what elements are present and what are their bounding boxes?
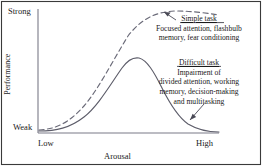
annotation-difficult-task-line-1: Impairment of [141,68,257,78]
x-axis-left-label: Low [38,139,54,148]
annotation-simple-task-line-1: Focused attention, flashbulb [140,24,258,34]
annotation-simple-task: Simple task Focused attention, flashbulb… [140,14,258,43]
annotation-simple-task-line-2: memory, fear conditioning [140,33,258,43]
annotation-difficult-task: Difficult task Impairment of divided att… [141,58,257,107]
y-axis-bottom-label: Weak [13,123,32,132]
annotation-simple-task-title: Simple task [140,14,258,24]
annotation-difficult-task-line-2: divided attention, working [141,77,257,87]
y-axis-top-label: Strong [8,7,31,16]
annotation-difficult-task-line-3: memory, decision-making [141,87,257,97]
annotation-difficult-task-line-4: and multitasking [141,97,257,107]
x-axis-right-label: High [196,139,213,148]
x-axis-title: Arousal [104,152,131,161]
figure-container: Strong Weak Performance Low High Arousal… [0,0,262,166]
y-axis-title: Performance [4,44,12,104]
annotation-difficult-task-title: Difficult task [141,58,257,68]
